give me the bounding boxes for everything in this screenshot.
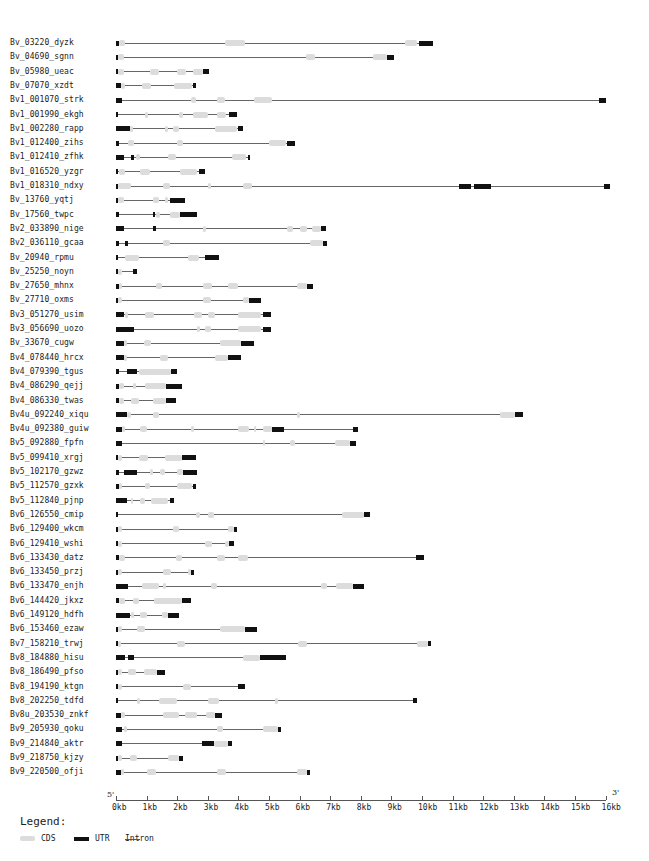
cds-block <box>177 69 186 75</box>
gene-label: Bv5_092880_fpfn <box>10 438 84 448</box>
utr-block <box>166 384 181 389</box>
cds-block <box>177 483 192 489</box>
cds-block <box>254 97 272 103</box>
axis-tick <box>300 796 301 800</box>
axis-tick <box>208 796 209 800</box>
gene-label: Bv_27710_oxms <box>10 295 74 305</box>
cds-block <box>193 69 204 75</box>
cds-block <box>156 283 162 289</box>
cds-block <box>312 226 321 232</box>
axis-tick <box>422 796 423 800</box>
axis-tick <box>514 796 515 800</box>
cds-block <box>180 169 197 175</box>
intron-line <box>116 514 370 515</box>
gene-label: Bv3_056690_uozo <box>10 324 84 334</box>
intron-line <box>116 443 356 444</box>
utr-block <box>193 83 196 88</box>
utr-block <box>193 484 196 489</box>
cds-block <box>118 669 123 675</box>
utr-block <box>353 427 358 432</box>
cds-block <box>170 212 181 218</box>
gene-label: Bv6_133450_przj <box>10 567 84 577</box>
cds-block <box>124 355 127 361</box>
cds-block <box>125 312 128 318</box>
utr-block <box>116 369 119 374</box>
cds-block <box>194 312 202 318</box>
gene-label: Bv5_099410_xrgj <box>10 453 84 463</box>
cds-block <box>191 426 194 432</box>
cds-block <box>203 283 212 289</box>
cds-block <box>220 626 244 632</box>
axis-tick <box>544 796 545 800</box>
axis-tick-label: 8kb <box>357 803 371 812</box>
cds-block <box>159 698 177 704</box>
cds-block <box>153 398 167 404</box>
utr-block <box>116 498 127 503</box>
utr-block <box>116 212 119 217</box>
kb-axis <box>116 800 606 801</box>
cds-block <box>165 197 168 203</box>
utr-block <box>153 212 155 217</box>
cds-block <box>197 326 200 332</box>
cds-block <box>217 112 226 118</box>
cds-block <box>140 498 145 504</box>
intron-line <box>116 414 523 415</box>
cds-block <box>144 340 152 346</box>
cds-block <box>243 183 252 189</box>
cds-block <box>122 426 125 432</box>
utr-block <box>116 312 124 317</box>
utr-block <box>116 441 122 446</box>
cds-block <box>254 426 256 432</box>
cds-block <box>133 383 136 389</box>
cds-block <box>118 183 132 189</box>
utr-block <box>179 756 184 761</box>
gene-label: Bv5_112840_pjnp <box>10 496 84 506</box>
utr-block <box>116 412 127 417</box>
cds-block <box>118 455 123 461</box>
gene-label: Bv8_194190_ktgn <box>10 682 84 692</box>
axis-tick <box>483 796 484 800</box>
gene-label: Bv4_086290_qejj <box>10 381 84 391</box>
cds-block <box>131 612 134 618</box>
utr-block <box>248 155 250 160</box>
gene-label: Bv6_129400_wkcm <box>10 524 84 534</box>
intron-line <box>116 243 327 244</box>
cds-block <box>177 140 183 146</box>
cds-block <box>217 769 226 775</box>
axis-tick <box>330 796 331 800</box>
utr-block <box>263 327 271 332</box>
cds-block <box>160 469 165 475</box>
intron-line <box>116 286 313 287</box>
cds-block <box>205 541 213 547</box>
utr-block <box>116 584 128 589</box>
gene-label: Bv_17560_twpc <box>10 210 74 220</box>
cds-block <box>160 355 168 361</box>
cds-block <box>287 226 293 232</box>
gene-label: Bv6_149120_hdfh <box>10 610 84 620</box>
gene-label: Bv2_033890_nige <box>10 224 84 234</box>
cds-block <box>131 498 133 504</box>
three-prime-label: 3' <box>612 788 619 797</box>
cds-block <box>165 455 182 461</box>
utr-block <box>116 512 118 517</box>
legend-item-intron: Intron <box>125 834 154 843</box>
utr-block <box>604 184 610 189</box>
utr-block <box>202 741 214 746</box>
utr-block <box>241 341 253 346</box>
cds-block <box>243 655 260 661</box>
cds-block <box>208 698 219 704</box>
utr-block <box>116 327 134 332</box>
intron-line <box>116 557 424 558</box>
cds-block <box>208 312 216 318</box>
cds-block <box>150 469 153 475</box>
cds-block <box>124 726 127 732</box>
gene-label: Bv9_218750_kjzy <box>10 753 84 763</box>
gene-label: Bv_03220_dyzk <box>10 38 74 48</box>
utr-block <box>234 527 237 532</box>
axis-tick-label: 13kb <box>510 803 529 812</box>
gene-label: Bv8_184880_hisu <box>10 653 84 663</box>
utr-block <box>127 369 138 374</box>
cds-block <box>203 297 211 303</box>
utr-block <box>353 584 364 589</box>
legend-label-utr: UTR <box>95 834 109 843</box>
